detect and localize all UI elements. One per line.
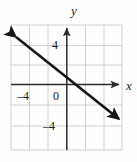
origin-label: 0 [53, 90, 59, 102]
y-axis-label: y [71, 4, 77, 17]
graph-figure: y x 4 –4 0 –4 [0, 0, 137, 162]
y-tick-label-neg4: –4 [43, 120, 55, 132]
coordinate-plane [0, 0, 137, 162]
x-tick-label-neg4: –4 [17, 90, 29, 102]
y-tick-label-4: 4 [52, 39, 58, 51]
x-axis-label: x [126, 79, 132, 92]
